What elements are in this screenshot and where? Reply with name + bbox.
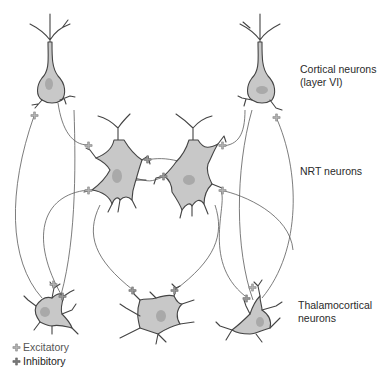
excitatory-synapse-icon	[219, 142, 226, 149]
label-cortical-line2: (layer VI)	[300, 76, 376, 89]
connections	[15, 103, 293, 305]
label-nrt-neurons: NRT neurons	[300, 165, 362, 178]
excitatory-synapse-icon	[85, 187, 92, 194]
connection-tc-left-to-nrt-left	[43, 190, 88, 296]
inhibitory-synapse-icon	[12, 357, 21, 366]
thalamocortical-neuron-left	[24, 282, 78, 334]
connection-tc-right-to-nrt-right	[219, 190, 293, 296]
nucleus	[45, 78, 53, 90]
thalamocortical-neuron-middle	[120, 284, 194, 344]
thalamocortical-neuron-right	[216, 280, 282, 342]
cortical-neuron-left	[30, 14, 75, 108]
nucleus	[40, 307, 50, 317]
connection-cortical-right-to-tc-right	[239, 110, 253, 300]
connection-cortical-left-to-nrt-left	[58, 103, 88, 145]
label-cortical-line1: Cortical neurons	[300, 63, 376, 76]
nucleus	[256, 86, 268, 94]
nucleus	[156, 310, 166, 322]
nucleus	[256, 317, 264, 327]
connection-cortical-right-to-tc-right-outer	[262, 117, 293, 298]
legend-excitatory: Excitatory	[12, 341, 69, 353]
excitatory-synapse-icon	[273, 114, 280, 121]
legend-inhibitory-label: Inhibitory	[23, 355, 66, 367]
label-thalamocortical-line2: neurons	[298, 312, 372, 325]
label-cortical-neurons: Cortical neurons (layer VI)	[300, 63, 376, 89]
legend-inhibitory: Inhibitory	[12, 355, 66, 367]
legend-excitatory-label: Excitatory	[23, 341, 69, 353]
excitatory-synapse-icon	[219, 187, 226, 194]
nucleus	[183, 175, 195, 185]
nrt-neuron-left	[84, 114, 150, 212]
excitatory-synapse-icon	[31, 112, 38, 119]
connection-nrt-right-to-tc-middle	[175, 205, 219, 290]
label-thalamocortical-line1: Thalamocortical	[298, 299, 372, 312]
excitatory-synapse-icon	[12, 343, 21, 352]
nucleus	[112, 169, 122, 183]
cortical-neuron-right	[238, 14, 282, 110]
connection-cortical-left-to-tc-left	[15, 116, 42, 298]
label-thalamocortical-neurons: Thalamocortical neurons	[298, 299, 372, 325]
nrt-neuron-right	[154, 114, 226, 218]
synapses	[31, 112, 280, 302]
connection-nrt-left-to-tc-middle	[93, 205, 133, 290]
